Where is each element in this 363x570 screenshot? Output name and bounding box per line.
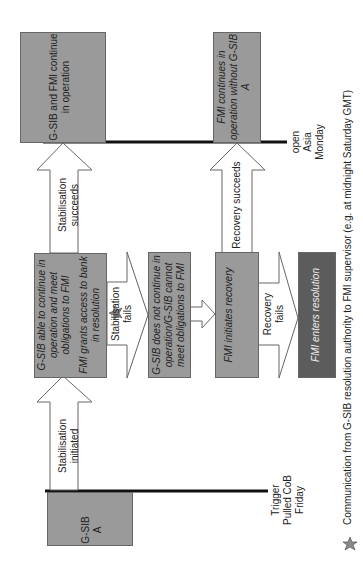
fmi-initiates-box (215, 252, 259, 378)
gsib-not-continue-label: G-SIB does not continue in operation/G-S… (151, 253, 187, 377)
recovery-fails-label: Recovery fails (262, 283, 286, 345)
gsib-a-label: G-SIB A (80, 515, 104, 545)
recovery-succeeds-label: Recovery succeeds (231, 157, 243, 253)
end-timeline-label: open Asia Monday (290, 124, 326, 160)
legend-star-icon (343, 537, 357, 550)
stabilisation-fails-label: Stabilisation fails (110, 283, 134, 345)
legend-text: Communication from G-SIB resolution auth… (342, 5, 354, 525)
connector-arrow (190, 300, 215, 328)
fmi-initiates-label: FMI initiates recovery (223, 253, 235, 377)
stabilisation-initiated-label: Stabilisation initiated (57, 402, 81, 490)
resolution-flow-diagram: G-SIB and FMI continue in operation FMI … (0, 0, 363, 570)
both-continue-label: G-SIB and FMI continue in operation (48, 32, 72, 142)
fmi-enters-label: FMI enters resolution (310, 253, 322, 377)
start-timeline-label: Trigger Pulled CoB Friday (270, 470, 306, 530)
fmi-continues-label: FMI continues in operation without G-SIB… (216, 32, 252, 142)
fmi-grants-label: FMI grants access to bank in resolution (78, 253, 102, 377)
stabilisation-succeeds-label: Stabilisation succeeds (57, 157, 81, 253)
gsib-able-label: G-SIB able to continue in operation and … (36, 253, 72, 377)
